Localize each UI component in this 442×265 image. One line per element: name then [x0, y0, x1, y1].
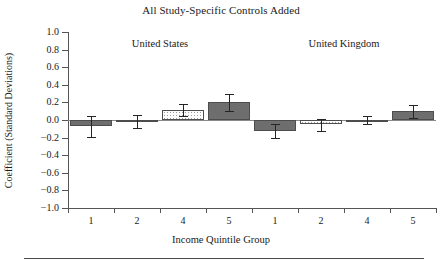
x-axis-tick-label: 1 — [79, 215, 103, 226]
footer-divider — [24, 258, 424, 259]
x-axis-tick — [68, 208, 69, 213]
y-axis-tick-label: 0.8 — [29, 45, 59, 55]
x-axis-tick-label: 1 — [263, 215, 287, 226]
x-axis-label: Income Quintile Group — [0, 234, 442, 245]
y-axis-tick-label: 0.4 — [29, 80, 59, 90]
x-axis-tick — [252, 208, 253, 213]
error-bar — [413, 105, 414, 118]
y-axis-tick-label: −0.6 — [29, 168, 59, 178]
error-bar-cap — [133, 128, 142, 129]
error-bar — [229, 94, 230, 111]
error-bar — [91, 116, 92, 136]
error-bar — [367, 116, 368, 125]
error-bar-cap — [179, 104, 188, 105]
error-bar — [137, 115, 138, 128]
error-bar — [321, 119, 322, 130]
error-bar — [183, 104, 184, 116]
y-axis-tick-label: −0.8 — [29, 185, 59, 195]
error-bar-cap — [271, 124, 280, 125]
y-axis-tick-label: −0.2 — [29, 133, 59, 143]
x-axis-tick — [206, 208, 207, 213]
error-bar-cap — [225, 94, 234, 95]
x-axis-tick — [390, 208, 391, 213]
y-axis-tick-label: −1.0 — [29, 203, 59, 213]
x-axis-tick — [160, 208, 161, 213]
y-axis-tick-label: 0.2 — [29, 97, 59, 107]
error-bar-cap — [133, 115, 142, 116]
error-bar-cap — [317, 131, 326, 132]
x-axis-tick-label: 5 — [217, 215, 241, 226]
x-axis-tick-label: 2 — [309, 215, 333, 226]
x-axis-tick-label: 4 — [355, 215, 379, 226]
error-bar-cap — [317, 119, 326, 120]
error-bar-cap — [409, 105, 418, 106]
y-axis-label-text: Coefficient (Standard Deviations) — [4, 52, 15, 187]
error-bar-cap — [363, 124, 372, 125]
y-axis-tick-label: 0.0 — [29, 115, 59, 125]
error-bar-cap — [409, 118, 418, 119]
error-bar — [275, 124, 276, 139]
x-axis-tick — [344, 208, 345, 213]
x-axis-tick-label: 4 — [171, 215, 195, 226]
error-bar-cap — [225, 111, 234, 112]
x-axis-tick-label: 5 — [401, 215, 425, 226]
y-axis-tick-label: −0.4 — [29, 150, 59, 160]
x-axis-tick — [436, 208, 437, 213]
y-axis-tick-label: 0.6 — [29, 62, 59, 72]
error-bar-cap — [363, 116, 372, 117]
error-bar-cap — [87, 116, 96, 117]
error-bar-cap — [179, 116, 188, 117]
error-bar-cap — [87, 137, 96, 138]
y-axis-label: Coefficient (Standard Deviations) — [2, 32, 16, 208]
y-axis-tick-label: 1.0 — [29, 27, 59, 37]
figure-container: All Study-Specific Controls Added Coeffi… — [0, 0, 442, 265]
x-axis-tick — [114, 208, 115, 213]
x-axis-tick-label: 2 — [125, 215, 149, 226]
error-bar-cap — [271, 138, 280, 139]
x-axis-tick — [298, 208, 299, 213]
chart-title: All Study-Specific Controls Added — [0, 4, 442, 16]
